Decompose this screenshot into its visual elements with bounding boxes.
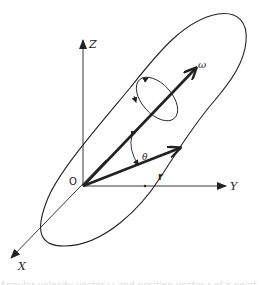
omega-vector bbox=[83, 68, 196, 186]
origin-label: O bbox=[69, 176, 77, 187]
rotation-arrow-2 bbox=[134, 96, 136, 102]
y-axis-crossing-dot bbox=[144, 185, 146, 187]
rotation-arrow-1 bbox=[144, 78, 148, 80]
rigid-body-rotation-diagram: Z Y X O ω r θ bbox=[0, 0, 260, 285]
z-axis-label: Z bbox=[88, 38, 97, 51]
x-axis bbox=[11, 160, 106, 258]
r-vector bbox=[83, 148, 180, 186]
r-label: r bbox=[158, 171, 163, 182]
x-axis-label: X bbox=[17, 260, 27, 273]
rigid-body-outline bbox=[41, 14, 247, 246]
theta-label: θ bbox=[142, 152, 148, 162]
omega-label: ω bbox=[198, 59, 206, 70]
theta-arc bbox=[131, 136, 138, 165]
y-axis-label: Y bbox=[230, 180, 239, 193]
figure-caption: Angular velocity vector ω and position v… bbox=[0, 275, 260, 285]
